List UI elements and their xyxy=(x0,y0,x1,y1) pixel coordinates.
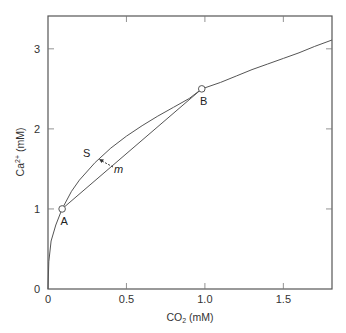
x-tick-label: 1.0 xyxy=(197,293,212,305)
y-axis-label: Ca2+ (mM) xyxy=(14,128,26,177)
y-axis-ticks: 0123 xyxy=(34,43,332,295)
y-tick-label: 0 xyxy=(34,283,40,295)
point-a xyxy=(59,206,66,213)
x-axis-label: CO2 (mM) xyxy=(166,311,213,324)
point-label: A xyxy=(60,215,68,227)
x-tick-label: 0.5 xyxy=(119,293,134,305)
plot-area: ABSm xyxy=(48,16,332,289)
x-tick-label: 0 xyxy=(45,293,51,305)
arrowhead-icon xyxy=(99,159,104,163)
point-b xyxy=(198,86,205,93)
x-axis-ticks: 00.51.01.5 xyxy=(45,16,291,305)
annotation-s: S xyxy=(83,147,90,159)
plot-frame xyxy=(48,16,332,289)
annotation-m: m xyxy=(114,163,123,175)
solubility-curve xyxy=(48,40,332,289)
y-tick-label: 2 xyxy=(34,123,40,135)
y-tick-label: 1 xyxy=(34,203,40,215)
x-tick-label: 1.5 xyxy=(276,293,291,305)
y-tick-label: 3 xyxy=(34,43,40,55)
point-label: B xyxy=(200,95,207,107)
arrow-m-to-s xyxy=(102,161,113,167)
chart: ABSm 00.51.01.5 0123 CO2 (mM) Ca2+ (mM) xyxy=(0,0,346,333)
